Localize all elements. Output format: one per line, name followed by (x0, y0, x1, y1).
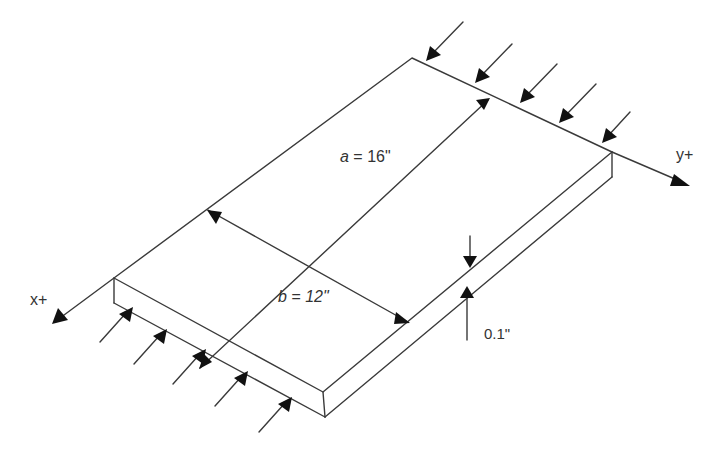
thickness-arrow-up-icon (460, 286, 474, 298)
front-edge-loads (100, 307, 292, 432)
plate-top-face (114, 58, 612, 392)
load-arrow-icon (278, 397, 292, 412)
load-arrow-icon (153, 329, 167, 344)
y-axis-arrowhead-icon (670, 174, 690, 186)
x-axis: x+ (30, 278, 114, 324)
dim-a-arrowhead-top-icon (476, 98, 490, 110)
load-arrow-icon (475, 68, 490, 83)
load-arrow-icon (602, 128, 617, 143)
y-axis-label: y+ (676, 146, 693, 163)
dimension-b-label: b = 12" (278, 288, 330, 305)
dimension-a-label: a = 16" (340, 148, 391, 165)
x-axis-arrowhead-icon (52, 308, 68, 324)
plate-side-faces (114, 152, 612, 417)
load-arrow-icon (234, 371, 248, 386)
load-arrow-icon (559, 108, 574, 123)
dimension-a: a = 16" (199, 98, 490, 369)
load-arrow-icon (426, 46, 441, 61)
x-axis-label: x+ (30, 291, 47, 308)
dimension-thickness: 0.1" (460, 236, 510, 342)
y-axis: y+ (612, 146, 693, 186)
dim-b-arrowhead-right-icon (394, 312, 410, 324)
dimension-b: b = 12" (207, 210, 410, 324)
load-arrow-icon (520, 88, 535, 103)
thickness-label: 0.1" (484, 325, 510, 342)
back-edge-loads (426, 22, 630, 143)
plate-buckling-diagram: x+ y+ a = 16" b = 12" (0, 0, 721, 456)
